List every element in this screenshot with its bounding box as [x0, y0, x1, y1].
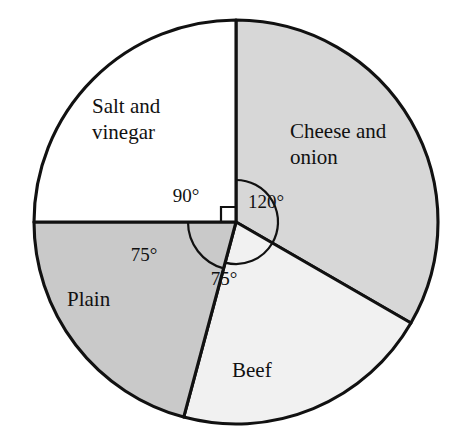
slice-label-beef-line1: Beef [232, 358, 272, 382]
slice-label-plain-line1: Plain [67, 287, 111, 311]
angle-label-beef: 75° [211, 268, 238, 289]
slice-label-cheese-and-onion-line1: Cheese and [290, 119, 387, 143]
pie-chart-figure: Cheese and onion Beef Plain Salt and vin… [0, 0, 466, 448]
angle-label-plain: 75° [131, 244, 158, 265]
angle-label-salt-and-vinegar: 90° [173, 185, 200, 206]
pie-chart-svg: Cheese and onion Beef Plain Salt and vin… [0, 0, 466, 448]
angle-label-cheese-and-onion: 120° [248, 191, 284, 212]
slice-label-salt-and-vinegar-line1: Salt and [92, 94, 161, 118]
slice-label-salt-and-vinegar-line2: vinegar [92, 120, 155, 144]
slice-label-cheese-and-onion-line2: onion [290, 145, 338, 169]
